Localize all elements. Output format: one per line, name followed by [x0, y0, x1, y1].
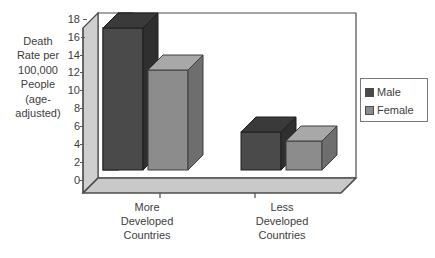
y-tick-label-8: 8: [58, 103, 80, 114]
legend: Male Female: [360, 78, 428, 122]
y-tick-label-16: 16: [58, 32, 80, 43]
bar-female-more-developed: [148, 55, 203, 170]
y-tick-mark-16: [81, 37, 85, 38]
y-tick-mark-12: [80, 72, 84, 73]
y-tick-label-0: 0: [58, 175, 80, 186]
bar-chart: Death Rate per 100,000 People (age- adju…: [0, 0, 435, 258]
y-tick-mark-8: [80, 108, 84, 109]
legend-item-male[interactable]: Male: [365, 84, 401, 100]
x-axis-label-less-developed-line-3: Countries: [222, 228, 342, 242]
x-axis-label-more-developed-line-1: More: [87, 200, 207, 214]
plot-floor: [83, 178, 356, 193]
y-tick-label-12: 12: [58, 67, 80, 78]
x-axis-label-more-developed-line-2: Developed: [87, 214, 207, 228]
x-axis-label-less-developed-line-1: Less: [222, 200, 342, 214]
legend-swatch-female-icon: [365, 106, 374, 115]
y-tick-label-14: 14: [58, 50, 80, 61]
y-tick-mark-4: [80, 144, 84, 145]
x-axis-label-more-developed-line-3: Countries: [87, 228, 207, 242]
y-tick-label-18: 18: [58, 14, 80, 25]
x-axis-label-more-developed: More Developed Countries: [87, 200, 207, 242]
y-tick-label-6: 6: [58, 121, 80, 132]
x-axis-label-less-developed-line-2: Developed: [222, 214, 342, 228]
legend-item-female[interactable]: Female: [365, 102, 414, 118]
y-tick-mark-6: [80, 126, 84, 127]
legend-label-male: Male: [377, 87, 401, 98]
y-tick-label-4: 4: [58, 139, 80, 150]
legend-label-female: Female: [377, 105, 414, 116]
y-tick-mark-14: [80, 55, 84, 56]
y-tick-mark-18: [83, 19, 87, 20]
x-axis-label-less-developed: Less Developed Countries: [222, 200, 342, 242]
y-tick-label-2: 2: [58, 157, 80, 168]
y-tick-mark-2: [80, 162, 84, 163]
y-tick-label-10: 10: [58, 85, 80, 96]
legend-swatch-male-icon: [365, 88, 374, 97]
plot-left-wall: [83, 13, 98, 193]
y-tick-mark-0: [79, 180, 83, 181]
y-tick-mark-10: [80, 90, 84, 91]
